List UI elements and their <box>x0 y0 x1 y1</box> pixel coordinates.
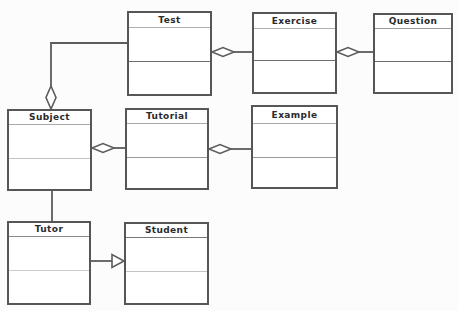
class-attributes-compartment <box>375 29 451 62</box>
class-attributes-compartment <box>126 238 207 272</box>
generalization-tutor-student <box>91 255 124 268</box>
class-methods-compartment <box>127 158 207 188</box>
class-title: Test <box>129 13 210 28</box>
class-attributes-compartment <box>129 28 210 62</box>
class-tutor: Tutor <box>7 221 91 305</box>
class-title: Tutorial <box>127 110 207 124</box>
class-methods-compartment <box>126 272 207 303</box>
aggregation-subject-test <box>46 43 127 109</box>
class-title: Exercise <box>254 14 335 29</box>
class-methods-compartment <box>253 158 336 187</box>
class-attributes-compartment <box>253 124 336 158</box>
aggregation-tutorial-example <box>209 145 251 154</box>
class-student: Student <box>124 222 209 305</box>
class-attributes-compartment <box>9 237 89 271</box>
class-exercise: Exercise <box>252 12 337 94</box>
class-attributes-compartment <box>254 29 335 61</box>
class-methods-compartment <box>375 62 451 92</box>
aggregation-diamond-icon <box>209 145 231 154</box>
class-methods-compartment <box>9 159 90 189</box>
class-test: Test <box>127 11 212 96</box>
class-example: Example <box>251 105 338 189</box>
aggregation-diamond-icon <box>337 48 359 57</box>
uml-class-diagram: Test Exercise Question Subject Tutorial … <box>0 0 459 311</box>
class-title: Question <box>375 15 451 29</box>
class-title: Subject <box>9 111 90 125</box>
class-attributes-compartment <box>9 125 90 159</box>
aggregation-exercise-question <box>337 48 373 57</box>
class-title: Example <box>253 107 336 124</box>
class-attributes-compartment <box>127 124 207 158</box>
aggregation-subject-tutorial <box>92 144 125 153</box>
class-methods-compartment <box>9 271 89 303</box>
aggregation-diamond-icon <box>46 86 56 109</box>
class-subject: Subject <box>7 109 92 191</box>
class-methods-compartment <box>254 61 335 92</box>
aggregation-test-exercise <box>212 48 252 57</box>
class-tutorial: Tutorial <box>125 108 209 190</box>
class-question: Question <box>373 13 453 94</box>
generalization-triangle-icon <box>112 255 124 268</box>
aggregation-diamond-icon <box>212 48 234 57</box>
class-methods-compartment <box>129 62 210 94</box>
class-title: Tutor <box>9 223 89 237</box>
class-title: Student <box>126 224 207 238</box>
aggregation-diamond-icon <box>92 144 114 153</box>
